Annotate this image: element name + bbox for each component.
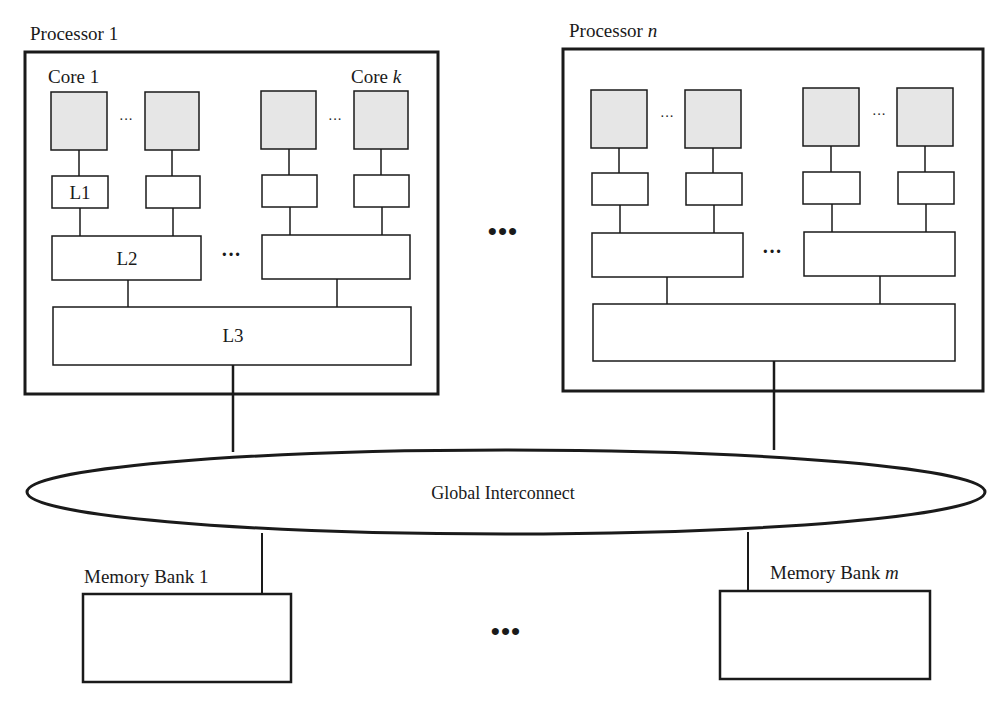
pn-core-k	[897, 88, 953, 146]
p1-core-k	[354, 91, 408, 149]
processor-n: Processor n ··· ··· ···	[563, 20, 983, 391]
memory-bank-m: Memory Bank m	[720, 562, 930, 679]
processors-ellipsis: •••	[488, 217, 518, 246]
memory-bank-m-label: Memory Bank m	[770, 562, 899, 583]
processor-n-title: Processor n	[569, 20, 657, 41]
p1-l2-ellipsis: ···	[221, 243, 241, 265]
p1-core-1	[51, 92, 107, 150]
pn-l1-cache-3	[803, 172, 860, 204]
pn-l2-ellipsis: ···	[762, 240, 782, 262]
memory-bank-1: Memory Bank 1	[83, 566, 291, 682]
pn-core-3	[803, 88, 859, 146]
p1-l1-cache-3	[262, 175, 317, 207]
p1-core-ellipsis-2: ···	[328, 112, 342, 127]
pn-l1-cache-2	[686, 173, 742, 205]
pn-l2-cache-2	[804, 232, 955, 276]
p1-core-ellipsis-1: ···	[119, 112, 133, 127]
p1-l2-cache-2	[262, 235, 410, 279]
core-1-label: Core 1	[48, 66, 99, 87]
p1-l1-cache-k	[354, 175, 409, 207]
p1-core-2	[145, 92, 199, 150]
l2-label: L2	[116, 248, 137, 269]
memory-banks-ellipsis: •••	[491, 617, 521, 646]
pn-core-ellipsis-1: ···	[660, 109, 674, 124]
pn-core-1	[591, 90, 647, 148]
core-k-label: Core k	[351, 66, 402, 87]
global-interconnect-label: Global Interconnect	[431, 483, 574, 503]
pn-l1-cache-k	[898, 172, 954, 204]
memory-bank-1-box	[83, 594, 291, 682]
pn-l3-cache	[593, 304, 955, 361]
l1-label: L1	[69, 182, 90, 203]
pn-core-ellipsis-2: ···	[872, 107, 886, 122]
l3-label: L3	[222, 325, 243, 346]
processor-1: Processor 1 Core 1 Core k ··· ··· L1 L2 …	[25, 23, 438, 394]
processor-1-title: Processor 1	[30, 23, 118, 44]
memory-bank-1-label: Memory Bank 1	[84, 566, 209, 587]
p1-l1-cache-2	[146, 176, 200, 208]
memory-bank-m-box	[720, 591, 930, 679]
multiprocessor-diagram: Processor 1 Core 1 Core k ··· ··· L1 L2 …	[0, 0, 1000, 705]
pn-core-2	[685, 90, 741, 148]
pn-l1-cache-1	[592, 173, 648, 205]
pn-l2-cache-1	[592, 233, 743, 277]
p1-core-3	[261, 91, 316, 149]
